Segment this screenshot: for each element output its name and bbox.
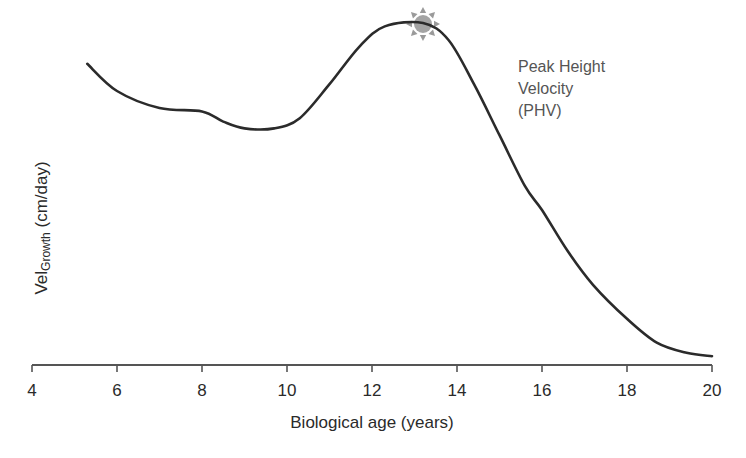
x-tick-label: 12 [363,381,382,400]
x-axis-title: Biological age (years) [290,413,453,432]
x-tick-label: 14 [448,381,467,400]
growth-velocity-chart: 468101214161820 Peak Height Velocity (PH… [0,0,746,458]
x-tick-label: 10 [278,381,297,400]
y-axis-title-unit: (cm/day) [32,161,51,232]
x-tick-label: 6 [112,381,121,400]
x-tick-labels: 468101214161820 [27,381,721,400]
x-tick-label: 16 [533,381,552,400]
y-axis-title-subscript: Growth [39,232,53,271]
y-axis-title-main: Vel [32,271,51,295]
growth-velocity-curve [87,22,712,356]
peak-label-line-2: Velocity [518,80,573,97]
y-axis-title: VelGrowth (cm/day) [32,161,53,294]
x-tick-label: 4 [27,381,36,400]
x-axis [32,365,712,372]
x-tick-label: 18 [618,381,637,400]
peak-label-line-3: (PHV) [518,102,562,119]
peak-label-line-1: Peak Height [518,58,606,75]
x-tick-label: 20 [703,381,722,400]
x-tick-label: 8 [197,381,206,400]
